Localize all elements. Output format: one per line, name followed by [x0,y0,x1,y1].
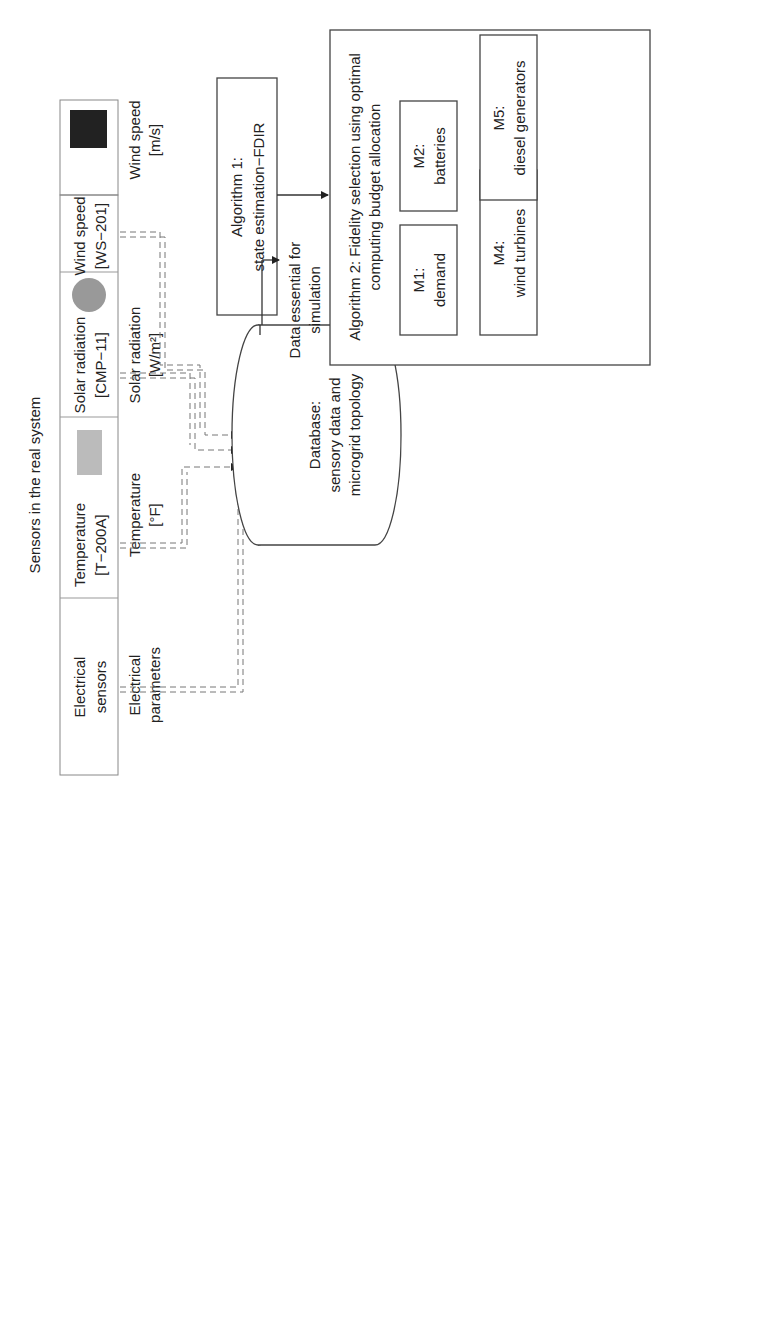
anemometer-icon [70,110,107,148]
svg-text:Electrical: Electrical [71,657,88,718]
svg-text:Electrical: Electrical [126,655,143,716]
svg-text:M5:: M5: [490,105,507,130]
svg-text:Algorithm 1:: Algorithm 1: [228,157,245,237]
database-label-2: sensory data and [326,377,343,492]
algorithm-2-box[interactable]: Algorithm 2: Fidelity selection using op… [330,30,650,365]
svg-text:parameters: parameters [146,647,163,723]
svg-text:Temperature: Temperature [126,473,143,557]
svg-text:[T−200A]: [T−200A] [92,514,109,575]
svg-text:diesel generators: diesel generators [511,60,528,175]
svg-text:Wind speed: Wind speed [71,196,88,275]
system-architecture-diagram: Sensors in the real system Electrical se… [0,0,765,1335]
svg-text:Algorithm 2: Fidelity selectio: Algorithm 2: Fidelity selection using op… [346,53,363,341]
svg-text:[CMP−11]: [CMP−11] [92,332,109,398]
svg-text:Temperature: Temperature [71,503,88,587]
thermometer-sensor-icon [77,430,102,475]
svg-text:sensors: sensors [92,661,109,714]
svg-text:M1:: M1: [410,267,427,292]
svg-text:M4:: M4: [490,240,507,265]
database-label-3: microgrid topology [346,373,363,496]
svg-text:Wind speed: Wind speed [126,100,143,179]
pyranometer-icon [72,278,106,312]
svg-text:[WS−201]: [WS−201] [92,203,109,269]
svg-text:batteries: batteries [431,127,448,185]
svg-text:wind turbines: wind turbines [511,209,528,298]
essential-label-1: Data essential for [286,242,303,359]
svg-text:demand: demand [431,253,448,307]
svg-text:Solar radiation: Solar radiation [71,317,88,414]
svg-text:[°F]: [°F] [146,503,163,527]
svg-text:computing budget allocation: computing budget allocation [366,104,383,291]
svg-text:Solar radiation: Solar radiation [126,307,143,404]
sensors-panel: Electrical sensors Temperature [T−200A] … [60,110,118,775]
algorithm-1-box[interactable]: Algorithm 1: state estimation−FDIR [217,78,277,315]
module-m1[interactable]: M1: demand [400,225,457,335]
diagram-stage: Sensors in the real system Electrical se… [0,0,765,1335]
sensors-title: Sensors in the real system [26,397,43,574]
module-m2[interactable]: M2: batteries [400,101,457,211]
module-m5[interactable]: M5: diesel generators [480,35,537,200]
essential-label-2: simulation [306,266,323,334]
svg-text:M2:: M2: [410,143,427,168]
svg-text:[m/s]: [m/s] [146,124,163,157]
svg-text:state estimation−FDIR: state estimation−FDIR [250,122,267,271]
database-label-1: Database: [306,401,323,469]
